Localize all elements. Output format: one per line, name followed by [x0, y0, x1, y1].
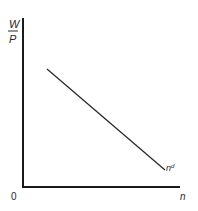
y-axis-label-denominator: P [9, 33, 17, 45]
y-axis-label-numerator: W [9, 18, 21, 30]
curve-label-superscript: d [171, 163, 175, 169]
labor-demand-curve [47, 69, 165, 170]
chart-canvas: W P 0 n nd [0, 0, 198, 211]
curve-label: nd [166, 163, 175, 173]
origin-label: 0 [11, 191, 17, 202]
x-axis-label: n [180, 191, 186, 202]
